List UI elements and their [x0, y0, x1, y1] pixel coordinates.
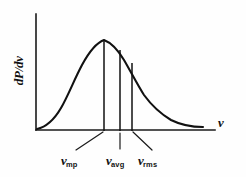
- marker-label-v-rms-sub: rms: [143, 160, 157, 169]
- speed-distribution-figure: dP/dᴠ ᴠ ᴠmp ᴠavg ᴠrms: [0, 0, 246, 177]
- marker-label-v-avg: ᴠavg: [106, 152, 124, 169]
- marker-label-v-mp: ᴠmp: [61, 152, 78, 169]
- marker-label-v-mp-sub: mp: [66, 160, 78, 169]
- x-axis-label: ᴠ: [218, 116, 223, 129]
- y-axis-label-text: dP/d: [11, 62, 26, 85]
- plot-canvas: [0, 0, 246, 177]
- y-axis-label: dP/dᴠ: [9, 40, 27, 102]
- leader-line-v-rms: [133, 132, 152, 150]
- y-axis-variable-glyph: ᴠ: [11, 57, 26, 62]
- leader-line-v-mp: [76, 132, 103, 150]
- marker-label-v-avg-sub: avg: [111, 160, 125, 169]
- marker-label-v-rms: ᴠrms: [138, 152, 157, 169]
